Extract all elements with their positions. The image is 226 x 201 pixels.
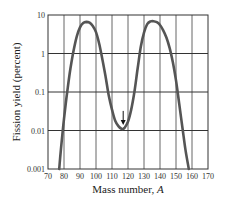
x-tick-label: 130 xyxy=(138,172,150,181)
x-tick-label: 100 xyxy=(90,172,102,181)
x-tick-label: 90 xyxy=(76,172,84,181)
minimum-arrow-icon xyxy=(121,111,126,125)
x-tick-label: 80 xyxy=(60,172,68,181)
y-tick-label: 0.001 xyxy=(27,165,45,174)
x-tick-label: 160 xyxy=(186,172,198,181)
x-tick-label: 120 xyxy=(122,172,134,181)
y-tick-label: 0.01 xyxy=(31,127,45,136)
x-tick-labels: 708090100110120130140150160170 xyxy=(44,172,214,181)
y-tick-label: 1 xyxy=(41,50,45,59)
y-tick-labels: 1010.10.010.001 xyxy=(27,11,45,174)
fission-yield-curve xyxy=(59,21,189,169)
y-axis-label: Fission yield (percent) xyxy=(10,42,23,141)
y-tick-label: 10 xyxy=(37,11,45,20)
y-tick-label: 0.1 xyxy=(35,88,45,97)
x-tick-label: 150 xyxy=(170,172,182,181)
x-tick-label: 110 xyxy=(106,172,118,181)
x-tick-label: 140 xyxy=(154,172,166,181)
x-axis-label: Mass number, A xyxy=(92,183,164,195)
x-tick-label: 170 xyxy=(202,172,214,181)
fission-yield-chart: 1010.10.010.001 708090100110120130140150… xyxy=(0,0,226,201)
x-tick-label: 70 xyxy=(44,172,52,181)
